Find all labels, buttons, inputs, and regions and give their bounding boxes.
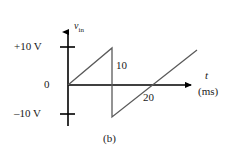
figure-caption: (b) xyxy=(103,133,116,144)
y-axis-tick-label-zero: 0 xyxy=(44,79,50,90)
x-axis-unit-label: (ms) xyxy=(198,86,218,97)
x-axis-tick-label-twenty: 20 xyxy=(143,92,154,103)
y-axis-tick-label-plus10: +10 V xyxy=(14,41,42,52)
y-axis-title-subscript: in xyxy=(78,26,83,34)
x-axis-tick-label-ten: 10 xyxy=(116,60,127,71)
sawtooth-waveform xyxy=(68,48,197,117)
y-axis-title: vin xyxy=(74,21,84,34)
waveform-figure: +10 V 0 –10 V 10 20 vin t (ms) (b) xyxy=(0,0,231,155)
x-axis-title: t xyxy=(205,70,208,81)
y-axis-tick-label-minus10: –10 V xyxy=(14,108,41,119)
